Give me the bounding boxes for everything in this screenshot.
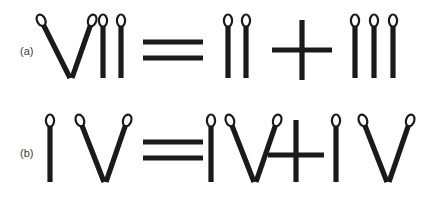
matchstick-figure: (a) (b) [0,0,433,197]
matchstick-head-icon [370,15,378,27]
matchstick-canvas: (a) (b) [0,0,433,197]
matchstick-head-icon [117,15,125,27]
matchstick-head-icon [242,15,250,27]
figure-background [0,0,433,197]
matchstick-head-icon [224,15,232,27]
matchstick-head-icon [351,15,359,27]
row-label-a: (a) [20,45,33,57]
matchstick-head-icon [389,15,397,27]
matchstick-head-icon [207,115,215,127]
matchstick-head-icon [99,15,107,27]
row-label-b: (b) [20,147,33,159]
matchstick-head-icon [332,115,340,127]
matchstick-head-icon [46,115,54,127]
